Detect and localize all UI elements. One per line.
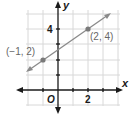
line-through-points bbox=[26, 13, 111, 72]
point-label-neg1-2: (−1, 2) bbox=[6, 46, 35, 57]
point-label-2-4: (2, 4) bbox=[90, 31, 113, 42]
x-axis-label: x bbox=[121, 77, 129, 89]
x-tick-label: 2 bbox=[85, 94, 91, 105]
x-axis bbox=[16, 87, 123, 93]
y-tick-label: 4 bbox=[47, 24, 53, 35]
y-axis-label: y bbox=[62, 0, 70, 11]
point-neg1-2 bbox=[40, 57, 45, 62]
coordinate-graph: (−1, 2) (2, 4) 4 2 O y x bbox=[0, 0, 129, 115]
y-axis bbox=[55, 1, 61, 114]
origin-label: O bbox=[47, 94, 55, 105]
